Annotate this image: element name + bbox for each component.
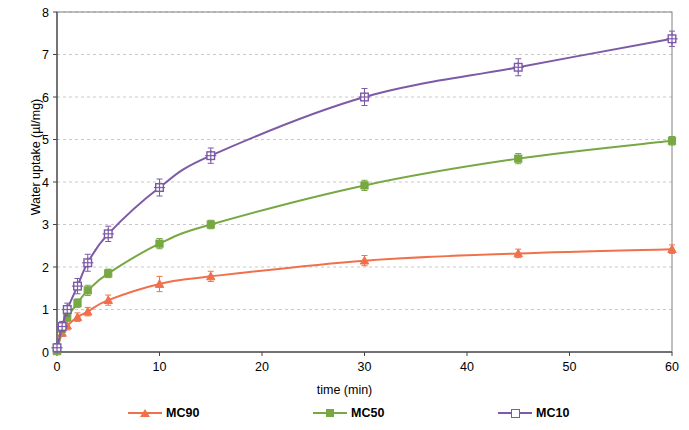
data-point-marker (515, 155, 522, 162)
y-tick-label: 8 (42, 6, 49, 20)
data-point-marker (207, 221, 214, 228)
legend-label-mc10: MC10 (536, 406, 569, 420)
x-tick-label: 0 (54, 360, 61, 374)
y-tick-label: 1 (42, 303, 49, 317)
legend-key-mc90 (128, 407, 162, 419)
data-point-marker (668, 137, 675, 144)
y-tick-label: 0 (42, 346, 49, 360)
data-point-marker (73, 313, 81, 321)
chart-container: Water uptake (µl/mg) 0123456780102030405… (0, 0, 689, 430)
data-point-marker (156, 240, 163, 247)
legend-label-mc90: MC90 (166, 406, 199, 420)
data-point-marker (84, 287, 91, 294)
triangle-marker-icon (140, 409, 150, 417)
series-line (57, 39, 672, 348)
series-line (57, 141, 672, 351)
chart-legend: MC90 MC50 MC10 (0, 404, 689, 430)
data-point-marker (74, 300, 81, 307)
legend-label-mc50: MC50 (351, 406, 384, 420)
legend-item-mc50[interactable]: MC50 (313, 406, 384, 420)
y-tick-label: 6 (42, 91, 49, 105)
x-tick-label: 40 (460, 360, 474, 374)
x-tick-label: 60 (665, 360, 679, 374)
y-tick-label: 7 (42, 48, 49, 62)
plot-area: 0123456780102030405060 (0, 0, 689, 400)
data-point-marker (84, 307, 92, 315)
x-axis-title: time (min) (0, 383, 689, 397)
series-mc90 (53, 245, 676, 353)
series-mc10 (51, 31, 677, 353)
y-tick-label: 3 (42, 218, 49, 232)
x-tick-label: 30 (358, 360, 372, 374)
x-tick-label: 20 (255, 360, 269, 374)
data-point-marker (105, 270, 112, 277)
legend-item-mc10[interactable]: MC10 (498, 406, 569, 420)
y-tick-label: 5 (42, 133, 49, 147)
y-axis-title: Water uptake (µl/mg) (29, 57, 43, 257)
x-tick-label: 50 (563, 360, 577, 374)
data-point-marker (361, 182, 368, 189)
y-tick-label: 2 (42, 261, 49, 275)
legend-item-mc90[interactable]: MC90 (128, 406, 199, 420)
series-mc50 (53, 137, 675, 355)
x-tick-label: 10 (153, 360, 167, 374)
y-tick-label: 4 (42, 176, 49, 190)
plus-square-marker-icon (511, 409, 520, 418)
square-marker-icon (326, 409, 334, 417)
legend-key-mc10 (498, 407, 532, 419)
legend-key-mc50 (313, 407, 347, 419)
